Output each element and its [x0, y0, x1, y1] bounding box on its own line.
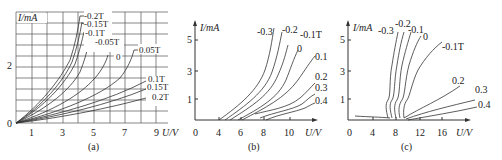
panel-b-ytick-5: 5 [187, 34, 192, 45]
label-c-0.3: 0.3 [475, 84, 488, 95]
label-a-m0.05: -0.05T [95, 37, 120, 47]
panel-c: I/mA 5 3 1 -0.3 -0.2 -0.1 0 -0.1T 0.2 0.… [340, 18, 491, 153]
curve-c-m0.1 [395, 32, 411, 118]
panel-c-ytick-5: 5 [340, 34, 345, 45]
panel-c-xtick-8: 8 [393, 127, 398, 138]
panel-c-y-arrow-icon [346, 20, 350, 26]
curve-c-0.2 [404, 86, 460, 118]
curve-c-0 [399, 36, 421, 118]
panel-b-caption: (b) [248, 141, 260, 153]
curve-b-0.1 [242, 56, 315, 120]
panel-a-curves [16, 16, 146, 123]
panel-b-ylabel: I/mA [199, 22, 220, 33]
panel-a-xtick-1: 1 [29, 127, 34, 138]
panel-b-ytick-1: 1 [187, 94, 192, 105]
label-b-0.1: 0.1 [315, 51, 328, 62]
panel-b-y-arrow-icon [193, 20, 197, 26]
panel-a-xtick-5: 5 [91, 127, 96, 138]
panel-b-xtick-8: 8 [261, 127, 266, 138]
panel-c-xtick-12: 12 [415, 127, 425, 138]
label-b-0: 0 [297, 43, 302, 54]
label-b-0.2: 0.2 [315, 71, 328, 82]
panel-c-xtick-4: 4 [370, 127, 375, 138]
panel-c-ytick-1: 1 [340, 94, 345, 105]
panel-b-xtick-0: 0 [193, 127, 198, 138]
curve-c-m0.3 [386, 32, 398, 118]
label-c-m0.1: -0.1 [408, 24, 424, 35]
curve-c-m0.2 [390, 32, 404, 118]
panel-b-xlabel: U/V [305, 127, 323, 138]
panel-a-xtick-3: 3 [60, 127, 65, 138]
panel-b-ytick-3: 3 [187, 66, 192, 77]
panel-a-caption: (a) [88, 141, 99, 153]
panel-c-ytick-3: 3 [340, 66, 345, 77]
label-a-0: 0 [116, 52, 121, 62]
figure: I/mA -0.2T -0.15T -0.1T -0.05T [0, 0, 502, 160]
panel-b-curves [219, 28, 315, 120]
label-c-m0.1T: -0.1T [442, 41, 464, 52]
panel-b: I/mA 5 3 1 -0.3 -0.2 -0.1T 0 0.1 0.2 0.3… [187, 20, 328, 153]
panel-c-caption: (c) [401, 141, 412, 153]
label-c-0.4: 0.4 [478, 99, 491, 110]
label-a-0.2: 0.2T [152, 92, 169, 102]
curve-a-0.1 [16, 81, 146, 123]
label-b-m0.1: -0.1T [300, 29, 322, 40]
panel-a-ylabel: I/mA [17, 12, 38, 23]
panel-c-xtick-0: 0 [347, 127, 352, 138]
panel-a: I/mA -0.2T -0.15T -0.1T -0.05T [7, 11, 180, 153]
label-b-0.4: 0.4 [315, 95, 328, 106]
label-b-m0.2: -0.2 [282, 24, 298, 35]
label-c-m0.3: -0.3 [378, 25, 394, 36]
panel-b-xtick-4: 4 [216, 127, 221, 138]
label-c-0: 0 [423, 31, 428, 42]
label-c-0.2: 0.2 [452, 75, 465, 86]
curve-a-m0.2 [16, 16, 80, 123]
panel-c-xlabel: U/V [456, 127, 474, 138]
panel-a-xtick-7: 7 [122, 127, 127, 138]
panel-c-x-arrow-icon [465, 118, 471, 122]
panel-a-ytick-2: 2 [7, 60, 12, 71]
panel-b-xtick-10: 10 [284, 127, 294, 138]
panel-a-xlabel: U/V [162, 127, 180, 138]
panel-c-xtick-16: 16 [437, 127, 447, 138]
panel-b-x-arrow-icon [312, 118, 318, 122]
label-b-m0.3: -0.3 [257, 26, 273, 37]
curve-a-m0.15 [16, 22, 82, 123]
curve-b-0.2 [255, 83, 315, 114]
label-a-0.15: 0.15T [147, 82, 169, 92]
panel-a-xtick-9: 9 [154, 127, 159, 138]
curve-b-m0.3 [219, 28, 274, 120]
panel-c-ylabel: I/mA [352, 22, 373, 33]
label-b-0.3: 0.3 [315, 82, 328, 93]
curve-b-m0.2 [225, 32, 282, 120]
label-a-0.05: 0.05T [139, 45, 161, 55]
curve-c-m0.1T [404, 42, 442, 118]
panel-a-ytick-0: 0 [7, 118, 12, 129]
panel-b-xtick-6: 6 [238, 127, 243, 138]
